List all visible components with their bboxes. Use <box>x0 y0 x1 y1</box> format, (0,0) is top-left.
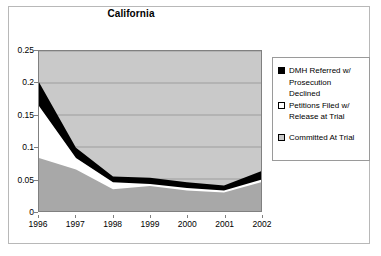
x-axis-tick-mark <box>262 215 263 218</box>
x-axis-tick-mark <box>75 215 76 218</box>
x-axis-tick-label: 1997 <box>55 219 95 229</box>
legend-spacer <box>278 123 365 132</box>
y-axis-tick-label: 0.1 <box>22 143 34 152</box>
stacked-area-svg <box>39 51 261 211</box>
chart-title: California <box>0 8 262 19</box>
y-axis-tick-mark <box>34 212 38 213</box>
x-axis-tick-label: 1999 <box>130 219 170 229</box>
legend-label-petitions-filed: Petitions Filed w/Release at Trial <box>289 100 349 123</box>
x-axis-tick-mark <box>187 215 188 218</box>
y-axis-tick-label: 0.25 <box>17 46 34 55</box>
y-axis-tick-label: 0.15 <box>17 110 34 119</box>
plot-area <box>38 50 262 212</box>
y-axis-tick-label: 0.05 <box>17 175 34 184</box>
legend-swatch-gray-icon <box>278 134 285 141</box>
x-axis-tick-label: 2001 <box>205 219 245 229</box>
x-axis-tick-mark <box>38 215 39 218</box>
legend-swatch-black-icon <box>278 67 285 74</box>
x-axis-tick-label: 2002 <box>242 219 282 229</box>
chart-legend: DMH Referred w/ProsecutionDeclined Petit… <box>272 57 370 161</box>
x-axis-tick-label: 1996 <box>18 219 58 229</box>
legend-swatch-white-icon <box>278 102 285 109</box>
x-axis-tick-mark <box>225 215 226 218</box>
x-axis-tick-mark <box>150 215 151 218</box>
x-axis-tick-label: 1998 <box>93 219 133 229</box>
legend-item-petitions-filed: Petitions Filed w/Release at Trial <box>278 100 365 123</box>
y-axis: 00.050.10.150.20.25 <box>0 50 34 212</box>
legend-label-committed-at-trial: Committed At Trial <box>289 132 354 144</box>
x-axis-tick-mark <box>113 215 114 218</box>
x-axis: 1996199719981999200020012002 <box>38 215 262 229</box>
y-axis-tick-label: 0.2 <box>22 78 34 87</box>
legend-item-dmh-referred: DMH Referred w/ProsecutionDeclined <box>278 65 365 100</box>
x-axis-tick-label: 2000 <box>167 219 207 229</box>
legend-label-dmh-referred: DMH Referred w/ProsecutionDeclined <box>289 65 351 100</box>
legend-item-committed-at-trial: Committed At Trial <box>278 132 365 144</box>
